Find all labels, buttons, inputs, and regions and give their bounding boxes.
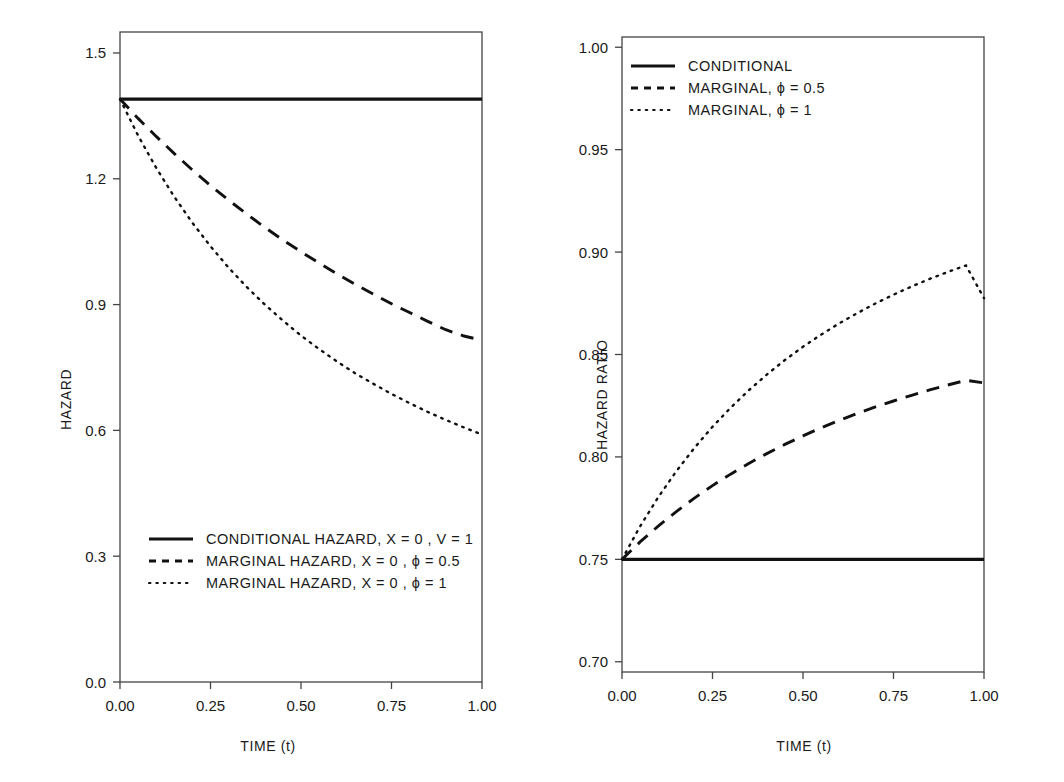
x-tick-label: 0.25: [196, 697, 225, 714]
x-tick-label: 0.50: [286, 697, 315, 714]
legend-swatch-solid: [630, 59, 676, 73]
y-tick-label: 0.95: [579, 141, 608, 158]
y-tick-label: 0.0: [85, 674, 106, 691]
legend-item: MARGINAL HAZARD, X = 0 , ϕ = 0.5: [148, 550, 473, 572]
y-tick-label: 0.70: [579, 653, 608, 670]
x-axis-label-time: TIME (t): [776, 738, 831, 754]
x-axis-label-time: TIME (t): [240, 738, 295, 754]
x-tick-label: 0.00: [607, 687, 636, 704]
x-tick-label: 0.00: [105, 697, 134, 714]
y-axis-label-hazard-ratio: HAZARD RATIO: [594, 340, 610, 450]
y-tick-label: 0.80: [579, 448, 608, 465]
legend-item: MARGINAL HAZARD, X = 0 , ϕ = 1: [148, 572, 473, 594]
figure-canvas: 0.00.30.60.91.21.50.000.250.500.751.00 H…: [0, 0, 1064, 782]
y-tick-label: 0.6: [85, 422, 106, 439]
x-tick-label: 0.75: [377, 697, 406, 714]
x-tick-label: 1.00: [467, 697, 496, 714]
hazard-plot-area: 0.00.30.60.91.21.50.000.250.500.751.00: [0, 0, 532, 782]
plot-frame: [622, 37, 984, 672]
legend-item: MARGINAL, ϕ = 0.5: [630, 77, 825, 99]
panel-hazard: 0.00.30.60.91.21.50.000.250.500.751.00 H…: [0, 0, 532, 782]
panel-hazard-ratio: 0.700.750.800.850.900.951.000.000.250.50…: [532, 0, 1064, 782]
legend-swatch-dotted: [148, 576, 194, 590]
legend-item: CONDITIONAL HAZARD, X = 0 , V = 1: [148, 528, 473, 550]
legend-hazard-ratio: CONDITIONALMARGINAL, ϕ = 0.5MARGINAL, ϕ …: [630, 55, 825, 121]
legend-label: CONDITIONAL HAZARD, X = 0 , V = 1: [206, 531, 473, 547]
x-tick-label: 1.00: [969, 687, 998, 704]
legend-item: CONDITIONAL: [630, 55, 825, 77]
x-tick-label: 0.50: [788, 687, 817, 704]
y-tick-label: 0.75: [579, 551, 608, 568]
series-line-dotted: [120, 99, 482, 434]
y-tick-label: 1.2: [85, 170, 106, 187]
x-tick-label: 0.75: [879, 687, 908, 704]
y-tick-label: 1.5: [85, 44, 106, 61]
x-tick-label: 0.25: [698, 687, 727, 704]
legend-label: MARGINAL HAZARD, X = 0 , ϕ = 0.5: [206, 553, 460, 569]
series-line-dashed: [622, 380, 984, 559]
legend-item: MARGINAL, ϕ = 1: [630, 99, 825, 121]
legend-swatch-dashed: [630, 81, 676, 95]
legend-label: CONDITIONAL: [688, 58, 793, 74]
legend-label: MARGINAL HAZARD, X = 0 , ϕ = 1: [206, 575, 447, 591]
y-tick-label: 0.3: [85, 548, 106, 565]
legend-swatch-dashed: [148, 554, 194, 568]
y-tick-label: 0.90: [579, 244, 608, 261]
y-tick-label: 1.00: [579, 39, 608, 56]
series-line-dashed: [120, 99, 482, 340]
series-line-dotted: [622, 265, 984, 559]
legend-hazard: CONDITIONAL HAZARD, X = 0 , V = 1MARGINA…: [148, 528, 473, 594]
y-tick-label: 0.9: [85, 296, 106, 313]
legend-swatch-dotted: [630, 103, 676, 117]
legend-swatch-solid: [148, 532, 194, 546]
legend-label: MARGINAL, ϕ = 1: [688, 102, 812, 118]
y-axis-label-hazard: HAZARD: [58, 369, 74, 430]
legend-label: MARGINAL, ϕ = 0.5: [688, 80, 825, 96]
